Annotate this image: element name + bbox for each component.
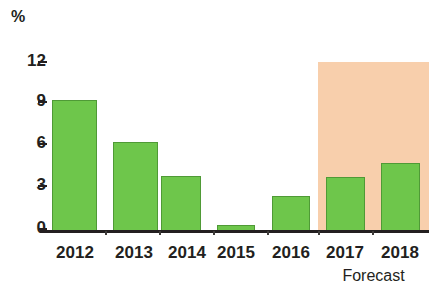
bar-2013	[113, 142, 158, 231]
x-axis-label-2016: 2016	[263, 242, 319, 264]
bar-2017	[326, 177, 365, 231]
x-axis-label-2018: 2018	[372, 242, 428, 264]
x-axis-label-2015: 2015	[208, 242, 264, 264]
x-axis-label-2017: 2017	[317, 242, 373, 264]
x-axis-label-2014: 2014	[159, 242, 215, 264]
x-axis-tick-mark-5	[318, 231, 320, 235]
bar-chart: % 12 9 6 3 0 2012 2013 2014 2015	[0, 0, 429, 288]
bar-2016	[272, 196, 310, 231]
x-axis-baseline	[40, 230, 429, 233]
forecast-caption-label: Forecast	[318, 266, 429, 286]
y-axis-tick-mark-6	[38, 143, 47, 145]
y-axis-tick-mark-9	[38, 101, 47, 103]
y-axis-tick-mark-3	[38, 185, 47, 187]
x-axis-tick-mark-6	[372, 231, 374, 235]
y-axis-tick-mark-12	[38, 61, 47, 63]
bar-2012	[52, 100, 97, 231]
x-axis-tick-mark-2	[159, 231, 161, 235]
x-axis-tick-mark-4	[267, 231, 269, 235]
bar-2018	[381, 163, 420, 231]
y-axis-unit-label: %	[11, 8, 25, 26]
x-axis-label-2013: 2013	[105, 242, 163, 264]
x-axis-label-2012: 2012	[45, 242, 105, 264]
bar-2014	[161, 176, 201, 231]
plot-area: % 12 9 6 3 0 2012 2013 2014 2015	[0, 0, 429, 288]
x-axis-tick-mark-1	[105, 231, 107, 235]
x-axis-tick-mark-3	[213, 231, 215, 235]
